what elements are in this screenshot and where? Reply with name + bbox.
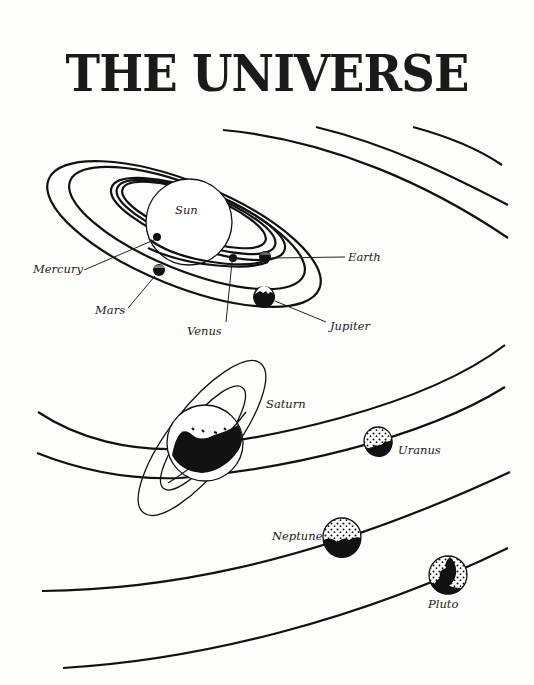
sun-label: Sun xyxy=(175,203,198,217)
universe-poster: THE UNIVERSE xyxy=(0,0,534,685)
saturn: Saturn xyxy=(118,343,305,532)
uranus: Uranus xyxy=(364,427,441,457)
solar-system-diagram: Sun Mercury Venus Earth Mars xyxy=(0,0,534,685)
saturn-label: Saturn xyxy=(266,397,306,411)
uranus-label: Uranus xyxy=(398,443,441,457)
pluto-label: Pluto xyxy=(427,597,458,611)
mars-label: Mars xyxy=(94,303,125,317)
jupiter: Jupiter xyxy=(253,286,371,333)
venus-label: Venus xyxy=(187,324,222,338)
neptune-label: Neptune xyxy=(271,529,323,543)
earth-label: Earth xyxy=(347,250,381,264)
jupiter-label: Jupiter xyxy=(328,319,371,333)
neptune: Neptune xyxy=(271,518,361,558)
mercury-label: Mercury xyxy=(32,262,83,276)
pluto: Pluto xyxy=(427,556,467,611)
outer-orbits xyxy=(37,345,510,668)
mars: Mars xyxy=(94,264,165,317)
